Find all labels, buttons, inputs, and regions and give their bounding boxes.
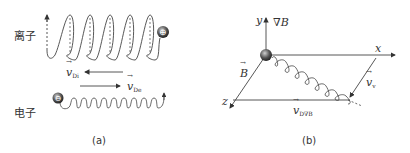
- b-field-label: B: [240, 67, 248, 80]
- caption-b: (b): [302, 135, 316, 146]
- ion-label: 离子: [14, 27, 36, 43]
- ion-helix: [47, 15, 160, 60]
- grad-b-label: ∇B: [273, 16, 289, 29]
- particle-b: [260, 49, 272, 61]
- electron-helix: [60, 93, 164, 109]
- x-axis-label: x: [375, 42, 381, 55]
- drift-helix: [272, 57, 362, 106]
- ion-charge-icon: ⊕: [159, 27, 167, 37]
- electron-label: 电子: [14, 104, 36, 120]
- diagram-graphics: ⊕ ⊖: [0, 0, 410, 153]
- electron-charge-icon: ⊖: [55, 94, 62, 103]
- velocity-label: vv: [366, 76, 376, 89]
- z-axis-label: z: [222, 95, 228, 108]
- axes-b: [230, 18, 395, 108]
- caption-a: (a): [92, 135, 106, 146]
- electron-drift-velocity-label: vDe: [127, 80, 142, 93]
- gradb-drift-velocity-label: vD∇B: [293, 104, 313, 117]
- ion-drift-velocity-label: vDi: [66, 66, 79, 79]
- y-axis-label: y: [256, 14, 262, 27]
